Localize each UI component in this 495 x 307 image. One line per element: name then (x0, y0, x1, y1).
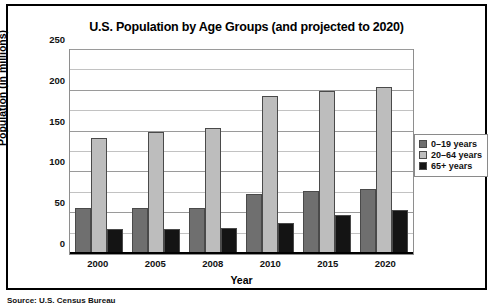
legend-item: 0–19 years (419, 139, 482, 149)
bar (246, 194, 262, 254)
bar (360, 189, 376, 254)
bar (132, 208, 148, 255)
x-axis-tick-label: 2008 (185, 258, 241, 269)
bar (319, 91, 335, 254)
chart-legend: 0–19 years20–64 years65+ years (414, 134, 488, 177)
bar (262, 96, 278, 254)
chart-title: U.S. Population by Age Groups (and proje… (8, 20, 485, 34)
chart-figure: U.S. Population by Age Groups (and proje… (6, 4, 487, 290)
y-axis-tick-label: 250 (49, 34, 65, 45)
x-axis-tick-label: 2010 (242, 258, 298, 269)
y-axis-tick-label: 200 (49, 74, 65, 85)
x-axis-ticks: 200020052008201020152020 (69, 258, 414, 269)
bar (75, 208, 91, 255)
legend-item-label: 20–64 years (431, 150, 482, 160)
bar (376, 87, 392, 254)
bar (148, 132, 164, 254)
bar (335, 215, 351, 254)
x-axis-tick-label: 2000 (70, 258, 126, 269)
bar (107, 229, 123, 254)
x-axis-label: Year (69, 274, 414, 286)
x-axis-tick-label: 2005 (127, 258, 183, 269)
bar (278, 223, 294, 254)
bar-group (246, 50, 294, 254)
legend-item-label: 65+ years (431, 161, 472, 171)
legend-swatch-icon (419, 162, 427, 170)
y-axis-tick-label: 0 (60, 238, 65, 249)
source-note: Source: U.S. Census Bureau (7, 296, 115, 305)
bar-group (75, 50, 123, 254)
bar-group (132, 50, 180, 254)
bar-group (360, 50, 408, 254)
bar-groups (70, 50, 413, 254)
x-axis-tick-label: 2020 (357, 258, 413, 269)
y-axis-tick-label: 100 (49, 156, 65, 167)
legend-swatch-icon (419, 151, 427, 159)
legend-item-label: 0–19 years (431, 139, 477, 149)
bar-group (303, 50, 351, 254)
bar (189, 208, 205, 255)
legend-swatch-icon (419, 140, 427, 148)
y-axis-tick-label: 150 (49, 115, 65, 126)
bar (91, 138, 107, 254)
legend-item: 20–64 years (419, 150, 482, 160)
bar (221, 228, 237, 254)
bar-group (189, 50, 237, 254)
bar (164, 229, 180, 254)
x-axis-tick-label: 2015 (300, 258, 356, 269)
legend-item: 65+ years (419, 161, 482, 171)
plot-area: 050100150200250 (69, 49, 414, 255)
bar (303, 191, 319, 254)
bar (205, 128, 221, 254)
x-axis-baseline (70, 252, 413, 254)
y-axis-label: Population (in millions) (0, 30, 8, 146)
y-axis-tick-label: 50 (54, 197, 65, 208)
bar (392, 210, 408, 254)
